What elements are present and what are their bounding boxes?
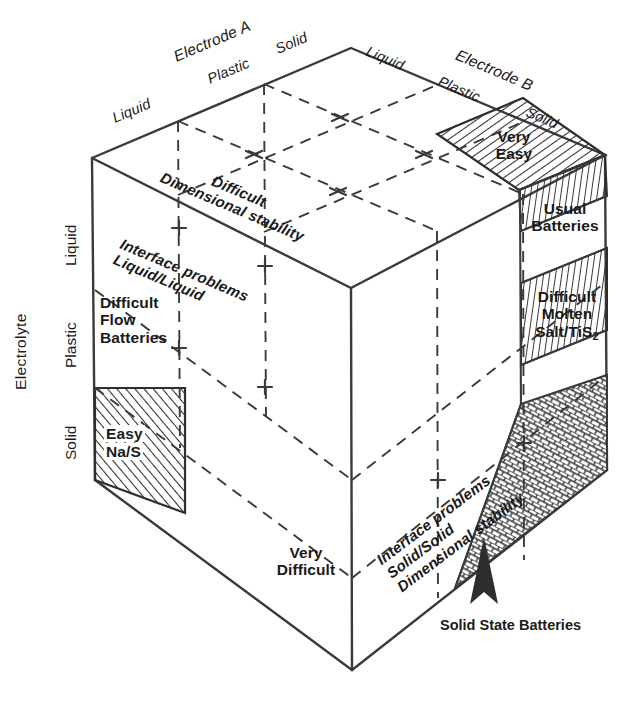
axis-title-electrolyte: Electrolyte <box>12 313 29 390</box>
cell-difficult-flow-batteries-line3: Batteries <box>100 329 184 346</box>
cell-difficult-molten-salt: Difficult Molten Salt/TiS2 <box>524 288 610 342</box>
cell-very-difficult: Very Difficult <box>258 544 354 579</box>
cell-difficult-molten-salt-line1: Difficult <box>524 288 610 305</box>
cell-usual-batteries-line2: Batteries <box>523 217 607 234</box>
axis-tick-electrolyte-solid: Solid <box>62 426 79 460</box>
axis-tick-electrolyte-plastic: Plastic <box>62 322 79 368</box>
cell-very-easy-line1: Very <box>482 128 546 145</box>
cell-very-easy: Very Easy <box>482 128 546 163</box>
cell-very-difficult-line1: Very <box>258 544 354 561</box>
cell-difficult-molten-salt-line2: Molten <box>524 305 610 322</box>
figure-canvas: Electrode A Liquid Plastic Solid Electro… <box>0 0 643 701</box>
cell-usual-batteries: Usual Batteries <box>523 200 607 235</box>
cell-very-easy-line2: Easy <box>482 145 546 162</box>
cell-difficult-flow-batteries-line2: Flow <box>100 311 184 328</box>
cell-easy-nas-line2: Na/S <box>104 443 143 460</box>
cell-difficult-flow-batteries-line1: Difficult <box>100 294 184 311</box>
axis-tick-electrolyte-liquid: Liquid <box>62 225 79 266</box>
cell-difficult-molten-salt-subscript: 2 <box>593 330 599 342</box>
callout-solid-state-batteries: Solid State Batteries <box>440 617 581 633</box>
cell-easy-nas: Easy Na/S <box>104 425 170 461</box>
cell-very-difficult-line2: Difficult <box>258 561 354 578</box>
cell-difficult-molten-salt-line3: Salt/TiS2 <box>524 323 610 343</box>
cell-difficult-molten-salt-line3-text: Salt/TiS <box>535 323 592 340</box>
cell-usual-batteries-line1: Usual <box>523 200 607 217</box>
cell-difficult-flow-batteries: Difficult Flow Batteries <box>100 294 184 346</box>
cube-drawing <box>0 0 643 701</box>
cell-easy-nas-line1: Easy <box>104 425 145 442</box>
